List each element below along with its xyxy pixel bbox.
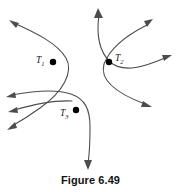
field-line-diagram [0, 0, 181, 192]
point-marker-T3 [73, 107, 79, 113]
point-label-T1: T1 [36, 56, 45, 67]
arrowhead-icon [162, 55, 172, 61]
point-label-T1-subscript: 1 [41, 60, 44, 67]
arrowhead-icon [8, 107, 18, 113]
arrowhead-icon [141, 101, 152, 107]
point-label-T3: T3 [60, 109, 69, 120]
point-marker-T2 [106, 59, 112, 65]
figure-container: T1 T2 T3 Figure 6.49 [0, 0, 181, 192]
point-label-T2: T2 [115, 54, 124, 65]
point-label-T3-subscript: 3 [65, 113, 68, 120]
arrowhead-icon [94, 8, 103, 18]
point-marker-T1 [50, 59, 56, 65]
arrowhead-icon [7, 122, 17, 130]
arrowhead-icon [84, 160, 92, 170]
arrowhead-icon [6, 92, 16, 98]
figure-caption: Figure 6.49 [0, 174, 181, 186]
arrowhead-icon [9, 20, 19, 28]
curve-around-T3 [6, 91, 92, 170]
point-label-T2-subscript: 2 [120, 58, 123, 65]
